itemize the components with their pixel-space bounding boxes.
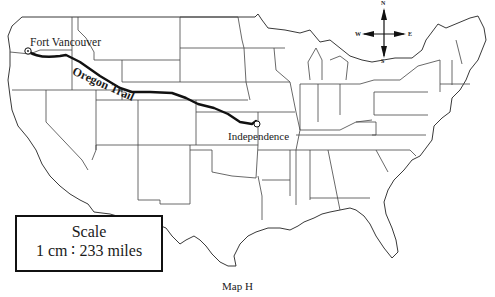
scale-title: Scale (17, 223, 161, 241)
independence-marker (254, 121, 260, 127)
fort-vancouver-label: Fort Vancouver (30, 36, 101, 48)
independence-label: Independence (228, 130, 289, 142)
scale-legend: Scale 1 cm ∶ 233 miles (15, 215, 163, 272)
compass-rose (362, 8, 406, 58)
compass-east-label: E (408, 31, 412, 37)
compass-south-label: S (381, 58, 384, 64)
compass-north-label: N (381, 0, 385, 6)
scale-value: 1 cm ∶ 233 miles (17, 241, 161, 261)
compass-west-label: W (355, 31, 361, 37)
map-caption: Map H (222, 280, 253, 292)
